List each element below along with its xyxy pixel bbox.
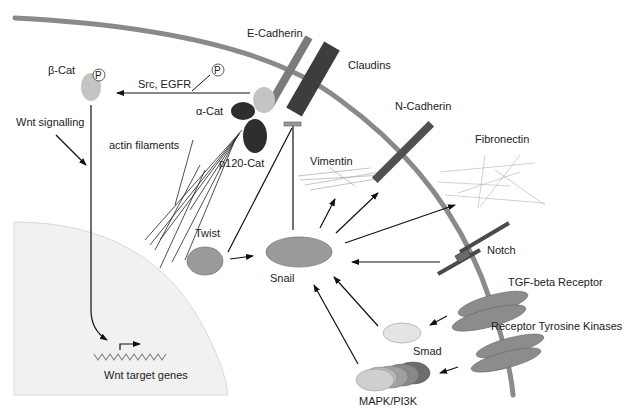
twist-label: Twist: [195, 227, 220, 239]
snail-label: Snail: [270, 272, 294, 284]
vimentin-label: Vimentin: [310, 155, 353, 167]
twist-protein: [187, 247, 223, 275]
tgf-beta-receptor-label: TGF-beta Receptor: [508, 276, 603, 288]
mapk-pi3k-complex: [356, 362, 430, 391]
p120-cat-label: p120-Cat: [219, 157, 264, 169]
p120-catenin: [243, 119, 267, 153]
fibronectin-filaments-icon: [438, 155, 545, 208]
rtk-to-mapk-arrow: [440, 367, 458, 373]
claudins-protein: [286, 42, 340, 117]
wnt-signalling-label: Wnt signalling: [16, 116, 84, 128]
snail-to-fibronectin-arrow: [345, 205, 455, 243]
emt-signaling-diagram: E-Cadherin Claudins α-Cat p120-Cat Src, …: [0, 0, 629, 418]
rtk-label: Receptor Tyrosine Kinases: [491, 320, 623, 332]
vimentin-filaments-icon: [298, 168, 383, 190]
claudins-label: Claudins: [348, 59, 391, 71]
n-cadherin-label: N-Cadherin: [395, 100, 451, 112]
alpha-catenin: [231, 102, 255, 120]
inhibition-bar: [284, 122, 301, 126]
actin-filaments-label: actin filaments: [109, 139, 180, 151]
smad-protein: [383, 323, 421, 343]
beta-cat-label: β-Cat: [48, 64, 75, 76]
tgf-to-smad-arrow: [430, 316, 447, 325]
beta-catenin-membrane: [253, 87, 275, 113]
n-cadherin-protein: [372, 121, 434, 183]
snail-to-vimentin-arrow-2: [336, 193, 378, 233]
fibronectin-label: Fibronectin: [475, 133, 529, 145]
phosphate-label: P: [95, 70, 102, 81]
snail-to-vimentin-arrow: [320, 199, 335, 228]
mapk-pi3k-label: MAPK/PI3K: [359, 395, 418, 407]
phosphate-label: P: [214, 65, 221, 76]
smad-label: Smad: [413, 345, 442, 357]
smad-to-snail-arrow: [334, 277, 378, 326]
wnt-arrow: [56, 135, 86, 165]
e-cadherin-label: E-Cadherin: [247, 27, 303, 39]
wnt-target-genes-label: Wnt target genes: [104, 369, 188, 381]
snail-protein: [266, 237, 332, 267]
twist-to-snail-arrow: [230, 256, 253, 259]
notch-label: Notch: [487, 244, 516, 256]
src-egfr-label: Src, EGFR: [138, 78, 191, 90]
alpha-cat-label: α-Cat: [196, 105, 223, 117]
